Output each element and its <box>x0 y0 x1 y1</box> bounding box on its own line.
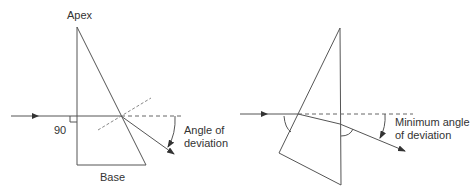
min-deviation-arc <box>380 114 385 138</box>
angle-of-deviation-label-2: deviation <box>184 137 228 149</box>
apex-label: Apex <box>67 9 93 21</box>
prism-diagrams: Apex Base 90 Angle of deviation Minimum … <box>0 0 474 195</box>
angle-of-deviation-label-1: Angle of <box>184 124 225 136</box>
min-deviation-label-2: of deviation <box>395 129 451 141</box>
emergent-ray <box>121 116 174 154</box>
incident-arrow-icon <box>32 113 39 119</box>
min-deviation-label-1: Minimum angle <box>395 116 470 128</box>
right-prism-diagram: Minimum angle of deviation <box>240 28 470 185</box>
prism <box>279 28 341 185</box>
right-angle-prism <box>77 27 146 165</box>
right-angle-mark <box>70 116 77 122</box>
left-prism-diagram: Apex Base 90 Angle of deviation <box>11 9 228 183</box>
exit-angle-arc <box>341 129 353 136</box>
incident-arrow-icon <box>261 111 268 117</box>
normal-line <box>98 98 151 130</box>
right-angle-label: 90 <box>54 124 66 136</box>
refracted-ray <box>298 114 340 124</box>
deviation-arc <box>168 116 175 147</box>
base-label: Base <box>100 171 125 183</box>
